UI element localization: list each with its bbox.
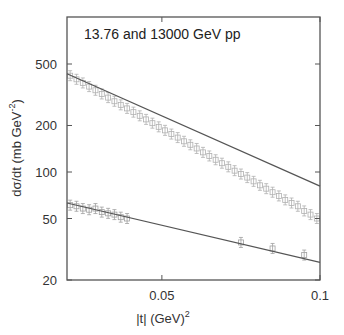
y-tick-label: 100 — [35, 165, 57, 180]
data-point — [264, 184, 269, 194]
x-axis-label: |t| (GeV)2 — [136, 309, 190, 326]
data-point — [194, 143, 199, 153]
data-point — [106, 93, 111, 103]
data-point — [74, 201, 79, 211]
data-point — [125, 214, 130, 224]
data-point — [200, 147, 205, 157]
data-point — [80, 204, 85, 214]
data-point — [156, 122, 161, 132]
data-point — [245, 173, 250, 183]
data-point — [295, 201, 300, 211]
y-tick-label: 50 — [43, 212, 57, 227]
data-point — [175, 133, 180, 143]
data-point — [163, 125, 168, 135]
plot-frame — [67, 17, 320, 280]
data-point — [219, 158, 224, 168]
fit-lines — [67, 74, 320, 263]
chart-annotation: 13.76 and 13000 GeV pp — [84, 26, 241, 42]
data-point — [188, 140, 193, 150]
data-point — [137, 111, 142, 121]
data-point — [68, 200, 73, 210]
data-point — [144, 114, 149, 124]
y-axis-ticks: 2050100200500 — [35, 57, 320, 288]
data-point — [226, 162, 231, 172]
data-points — [68, 71, 320, 260]
data-point — [276, 191, 281, 201]
data-point — [118, 100, 123, 110]
fit-line — [67, 203, 320, 262]
x-tick-label: 0.1 — [311, 288, 329, 303]
data-point — [270, 187, 275, 197]
data-point — [251, 176, 256, 186]
data-point — [232, 166, 237, 176]
data-point — [283, 195, 288, 205]
data-point — [182, 136, 187, 146]
data-point — [125, 103, 130, 113]
data-point — [112, 96, 117, 106]
data-point — [87, 205, 92, 215]
chart: 2050100200500 0.050.1 13.76 and 13000 Ge… — [0, 0, 344, 335]
data-point — [93, 204, 98, 214]
y-axis-label: dσ/dt (mb GeV-2) — [7, 99, 24, 197]
data-point — [238, 237, 243, 247]
data-point — [238, 169, 243, 179]
data-point — [207, 151, 212, 161]
data-point — [131, 107, 136, 117]
data-point — [308, 210, 313, 220]
data-point — [150, 118, 155, 128]
fit-line — [67, 74, 320, 186]
data-point — [257, 180, 262, 190]
data-point — [213, 155, 218, 165]
data-point — [289, 198, 294, 208]
data-point — [169, 129, 174, 139]
x-axis-ticks: 0.050.1 — [149, 17, 329, 303]
y-tick-label: 20 — [43, 273, 57, 288]
data-point — [302, 206, 307, 216]
y-tick-label: 200 — [35, 118, 57, 133]
y-tick-label: 500 — [35, 57, 57, 72]
data-point — [118, 212, 123, 222]
x-tick-label: 0.05 — [149, 288, 174, 303]
